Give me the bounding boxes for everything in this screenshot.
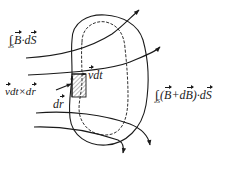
vector-b: B [164, 89, 171, 101]
plus-d: +d [171, 88, 185, 102]
field-line-1 [26, 10, 139, 58]
cross-product-label: vdt×dr [5, 86, 36, 97]
cross-product-pointer-arrow [56, 84, 71, 90]
flux-final-label: ∫S(B+dB)·dS [155, 88, 212, 105]
vector-r: r [59, 98, 64, 110]
velocity-displacement-label: vdt [88, 69, 103, 81]
close-dot-d: )·d [193, 88, 206, 102]
dt-text: dt [93, 68, 102, 82]
area-element-hatched [72, 74, 86, 97]
field-line-4 [34, 127, 123, 153]
cross-mid-text: dt×d [10, 85, 31, 97]
vector-r: r [31, 86, 35, 97]
vector-s: S [206, 89, 212, 101]
vector-b: B [14, 34, 21, 46]
vector-v: v [88, 69, 93, 81]
field-line-3 [36, 112, 150, 145]
vector-s: S [30, 34, 36, 46]
vector-db: B [186, 89, 193, 101]
line-element-label: dr [53, 98, 64, 110]
flux-initial-label: ∫SB·dS [9, 33, 36, 50]
vector-v: v [5, 86, 10, 97]
